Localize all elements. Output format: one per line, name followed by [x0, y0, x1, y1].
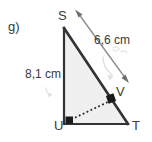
right-angle-marker-U	[66, 117, 74, 124]
vertex-label-S: S	[58, 9, 67, 22]
triangle-drawing	[0, 0, 152, 142]
item-label: g)	[8, 20, 20, 33]
dimension-label-hypotenuse: 6,6 cm	[94, 34, 130, 46]
geometry-figure: g) S U T V 6,6 cm 8,1 cm	[0, 0, 152, 142]
vertex-label-V: V	[116, 85, 125, 98]
vertex-label-U: U	[54, 119, 63, 132]
faint-mark-leg	[46, 88, 53, 98]
faint-mark-scribble	[113, 47, 127, 53]
dimension-label-leg: 8,1 cm	[25, 68, 61, 80]
vertex-label-T: T	[132, 119, 140, 132]
